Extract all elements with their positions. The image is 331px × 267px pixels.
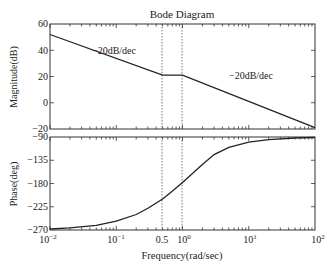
svg-text:60: 60 xyxy=(38,18,48,29)
svg-text:−225: −225 xyxy=(27,201,48,212)
phase-tick-labels: −90 −135 −180 −225 −270 xyxy=(27,131,48,235)
svg-text:0.5: 0.5 xyxy=(156,234,169,245)
svg-text:20: 20 xyxy=(38,71,48,82)
svg-text:10−1: 10−1 xyxy=(107,233,125,245)
svg-text:0: 0 xyxy=(43,97,48,108)
magnitude-curve xyxy=(50,35,315,128)
magnitude-axes xyxy=(50,24,315,129)
magnitude-tick-labels: 60 40 20 0 −20 xyxy=(32,18,48,134)
axis-ticks xyxy=(50,24,315,230)
bode-diagram: Bode Diagram −20dB/dec −20dB/dec Magnitu… xyxy=(0,0,331,267)
frequency-tick-labels: 10−2 10−1 0.5 100 101 102 xyxy=(39,233,325,245)
svg-text:−180: −180 xyxy=(27,178,48,189)
chart-title: Bode Diagram xyxy=(150,8,215,20)
svg-text:10−2: 10−2 xyxy=(39,233,57,245)
slope-annotation-2: −20dB/dec xyxy=(229,70,274,81)
svg-text:−135: −135 xyxy=(27,154,48,165)
slope-annotation-1: −20dB/dec xyxy=(92,45,137,56)
svg-text:102: 102 xyxy=(311,233,325,245)
frequency-xlabel: Frequency(rad/sec) xyxy=(141,250,223,262)
phase-axes xyxy=(50,137,315,230)
magnitude-ylabel: Magnitude(dB) xyxy=(8,46,20,108)
phase-curve xyxy=(50,138,315,230)
svg-text:40: 40 xyxy=(38,45,48,56)
svg-text:100: 100 xyxy=(177,233,191,245)
svg-text:101: 101 xyxy=(243,233,257,245)
phase-ylabel: Phase(deg) xyxy=(8,162,20,206)
svg-text:−90: −90 xyxy=(32,131,48,142)
